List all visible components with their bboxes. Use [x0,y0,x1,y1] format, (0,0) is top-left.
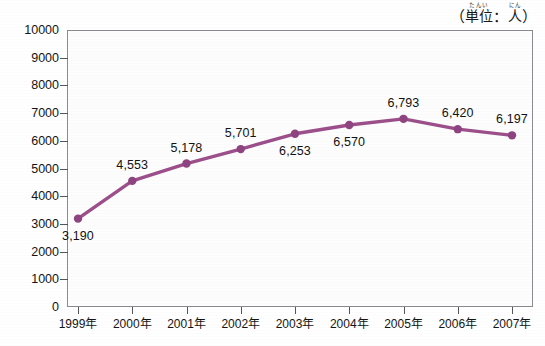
series-marker [454,125,462,133]
series-marker [74,214,82,222]
chart-figure: （たんい単位：にん人） 0100020003000400050006000700… [0,0,545,346]
series-markers [74,115,516,223]
series-marker [182,159,190,167]
series-marker [291,130,299,138]
series-marker [399,115,407,123]
series-marker [345,121,353,129]
series-marker [128,177,136,185]
series-line-layer [0,0,545,346]
series-marker [508,131,516,139]
series-marker [237,145,245,153]
